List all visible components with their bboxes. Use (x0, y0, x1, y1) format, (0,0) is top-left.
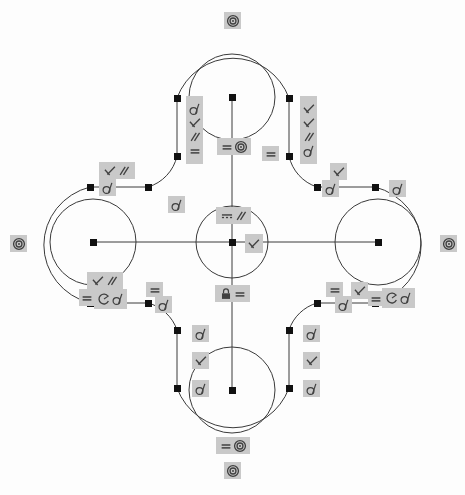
node-bottom-right-upper[interactable] (286, 327, 293, 334)
top-lobe-center[interactable] (229, 94, 236, 101)
tangent-icon[interactable] (337, 298, 351, 312)
right-lobe-center[interactable] (375, 239, 382, 246)
perpendicular-icon[interactable] (194, 354, 208, 368)
equal-icon[interactable] (369, 292, 383, 306)
constraint-bottom-center-equal-concentric[interactable] (216, 437, 250, 454)
parallel-icon[interactable] (188, 130, 202, 144)
tangent-icon[interactable] (194, 382, 208, 396)
constraint-upper-right-tangent-b[interactable] (389, 180, 406, 197)
constraint-center-horizontal-parallel[interactable] (216, 207, 251, 224)
node-left-upper-outer[interactable] (87, 184, 94, 191)
concentric-icon[interactable] (442, 237, 456, 251)
constraint-lower-left-radius-tangent[interactable] (94, 289, 127, 309)
constraint-upper-right-tangent-a[interactable] (322, 180, 339, 197)
constraint-top-outer-concentric[interactable] (224, 12, 241, 29)
tangent-icon[interactable] (391, 182, 405, 196)
constraint-lower-right-perpendicular[interactable] (351, 282, 368, 299)
node-top-right-lower[interactable] (286, 153, 293, 160)
node-right-upper-inner[interactable] (314, 184, 321, 191)
constraint-lower-right-equal-b[interactable] (368, 291, 383, 306)
constraint-top-center-equal-concentric[interactable] (217, 138, 251, 155)
constraint-top-right-stack[interactable] (300, 96, 317, 164)
concentric-icon[interactable] (234, 140, 248, 154)
perpendicular-icon[interactable] (302, 116, 316, 130)
constraint-lower-mid-tangent[interactable] (155, 296, 172, 313)
tangent-icon[interactable] (399, 291, 413, 305)
constraint-bottom-left-tangent-a[interactable] (192, 325, 209, 342)
radius-arc-icon[interactable] (97, 292, 111, 306)
node-right-upper-outer[interactable] (372, 184, 379, 191)
constraint-lower-left-perp-parallel[interactable] (87, 272, 123, 289)
sketch-canvas[interactable] (0, 0, 465, 495)
perpendicular-icon[interactable] (103, 164, 117, 178)
tangent-icon[interactable] (188, 102, 202, 116)
equal-icon[interactable] (219, 439, 233, 453)
equal-icon[interactable] (264, 147, 278, 161)
perpendicular-icon[interactable] (302, 102, 316, 116)
constraint-right-outer-concentric[interactable] (440, 235, 457, 252)
concentric-icon[interactable] (12, 237, 26, 251)
node-right-lower-inner[interactable] (314, 300, 321, 307)
concentric-icon[interactable] (226, 14, 240, 28)
equal-icon[interactable] (220, 140, 234, 154)
parallel-icon[interactable] (302, 130, 316, 144)
tangent-icon[interactable] (170, 198, 184, 212)
block-lock-icon[interactable] (219, 287, 233, 301)
perpendicular-icon[interactable] (305, 354, 319, 368)
center-point[interactable] (229, 239, 236, 246)
constraint-bottom-left-perpendicular[interactable] (192, 352, 209, 369)
tangent-icon[interactable] (305, 382, 319, 396)
equal-icon[interactable] (328, 283, 342, 297)
constraint-bottom-outer-concentric[interactable] (224, 462, 241, 479)
node-bottom-left-upper[interactable] (174, 327, 181, 334)
perpendicular-icon[interactable] (353, 284, 367, 298)
perpendicular-icon[interactable] (332, 165, 346, 179)
constraint-center-perpendicular[interactable] (245, 234, 263, 253)
constraint-lower-right-tangent-a[interactable] (335, 296, 352, 313)
node-top-right-upper[interactable] (286, 95, 293, 102)
tangent-icon[interactable] (101, 181, 115, 195)
constraint-lower-left-equal[interactable] (79, 289, 94, 306)
constraint-bottom-right-tangent-a[interactable] (303, 325, 320, 342)
constraint-upper-left-tangent[interactable] (99, 179, 116, 196)
node-left-upper-inner[interactable] (145, 184, 152, 191)
parallel-icon[interactable] (105, 274, 119, 288)
tangent-icon[interactable] (324, 182, 338, 196)
bottom-lobe-center[interactable] (229, 387, 236, 394)
constraint-bottom-right-tangent-b[interactable] (303, 380, 320, 397)
constraint-bottom-right-perpendicular[interactable] (303, 352, 320, 369)
perpendicular-icon[interactable] (91, 274, 105, 288)
constraint-bottom-left-tangent-b[interactable] (192, 380, 209, 397)
constraint-lower-right-radius-tangent[interactable] (382, 288, 415, 308)
constraint-lower-mid-equal[interactable] (146, 282, 163, 297)
node-top-left-lower[interactable] (174, 153, 181, 160)
equal-icon[interactable] (148, 283, 162, 297)
parallel-icon[interactable] (234, 209, 248, 223)
tangent-icon[interactable] (111, 292, 125, 306)
constraint-center-block-equal[interactable] (215, 285, 250, 302)
tangent-icon[interactable] (157, 298, 171, 312)
node-top-left-upper[interactable] (174, 95, 181, 102)
tangent-icon[interactable] (302, 144, 316, 158)
concentric-icon[interactable] (226, 464, 240, 478)
constraint-upper-right-perpendicular[interactable] (330, 163, 347, 180)
node-bottom-right-lower[interactable] (286, 385, 293, 392)
radius-arc-icon[interactable] (385, 291, 399, 305)
tangent-icon[interactable] (305, 327, 319, 341)
perpendicular-icon[interactable] (188, 116, 202, 130)
horizontal-icon[interactable] (220, 209, 234, 223)
perpendicular-icon[interactable] (247, 237, 261, 251)
node-bottom-left-lower[interactable] (174, 385, 181, 392)
constraint-left-outer-concentric[interactable] (10, 235, 27, 252)
constraint-upper-mid-tangent[interactable] (168, 196, 185, 213)
left-lobe-center[interactable] (90, 239, 97, 246)
node-left-lower-inner[interactable] (145, 300, 152, 307)
equal-icon[interactable] (80, 291, 94, 305)
parallel-icon[interactable] (117, 164, 131, 178)
tangent-icon[interactable] (194, 327, 208, 341)
equal-icon[interactable] (233, 287, 247, 301)
equal-icon[interactable] (188, 144, 202, 158)
constraint-upper-left-perp-parallel[interactable] (99, 162, 135, 179)
constraint-top-left-stack[interactable] (186, 96, 203, 164)
constraint-top-right-equal[interactable] (262, 146, 279, 161)
